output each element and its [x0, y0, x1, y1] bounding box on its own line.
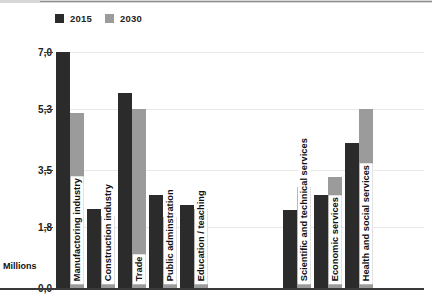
bar-2015[interactable] [56, 52, 70, 288]
category-label: Trade [133, 254, 146, 284]
bar-2015[interactable] [314, 195, 328, 288]
bar-chart: 2015 2030 0,01,83,55,37,0 Millions Manuf… [0, 0, 432, 305]
category-label: Public adminstration [164, 187, 177, 284]
category-label: Education / teaching [195, 188, 208, 284]
category-label: Manufactoring industry [71, 176, 84, 284]
bar-2015[interactable] [180, 205, 194, 288]
bar-series-layer: Manufactoring industryConstruction indus… [56, 0, 432, 288]
bar-group[interactable]: Economic services [314, 0, 345, 288]
category-label: Construction industry [102, 182, 115, 284]
bar-group[interactable]: Education / teaching [180, 0, 211, 288]
y-axis-tick-mark [44, 52, 53, 54]
bar-group[interactable]: Construction industry [87, 0, 118, 288]
bar-group[interactable]: Health and social services [345, 0, 376, 288]
x-axis-baseline [0, 288, 424, 290]
category-label: Economic services [329, 195, 342, 284]
y-axis-tick-mark [44, 227, 53, 229]
y-axis-tick-mark [44, 170, 53, 172]
category-label: Health and social services [360, 163, 373, 284]
bar-2015[interactable] [345, 143, 359, 288]
bar-group[interactable]: Manufactoring industry [56, 0, 87, 288]
bar-2015[interactable] [149, 195, 163, 288]
bar-2015[interactable] [283, 210, 297, 288]
bar-2015[interactable] [118, 93, 132, 288]
bar-group[interactable]: Public adminstration [149, 0, 180, 288]
bar-group[interactable]: Scientific and technical services [283, 0, 314, 288]
category-label: Scientific and technical services [298, 136, 311, 284]
bar-group[interactable]: Trade [118, 0, 149, 288]
y-axis-tick-mark [44, 109, 53, 111]
bar-2015[interactable] [87, 209, 101, 288]
y-axis-unit-label: Millions [3, 261, 37, 271]
y-axis: 0,01,83,55,37,0 [0, 0, 52, 305]
